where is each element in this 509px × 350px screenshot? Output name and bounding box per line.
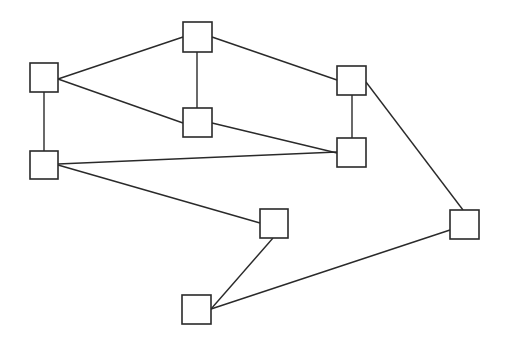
node-h	[450, 210, 479, 239]
node-c	[183, 108, 212, 137]
edge-c-f	[212, 123, 337, 153]
node-box	[450, 210, 479, 239]
edge-a-c	[58, 79, 183, 123]
node-d	[30, 151, 58, 179]
node-box	[30, 63, 58, 92]
edges-layer	[44, 37, 463, 309]
edge-h-i	[211, 230, 450, 309]
node-box	[337, 66, 366, 95]
node-box	[30, 151, 58, 179]
node-box	[260, 209, 288, 238]
edge-e-h	[366, 82, 463, 210]
node-box	[183, 108, 212, 137]
node-g	[260, 209, 288, 238]
node-a	[30, 63, 58, 92]
edge-d-g	[58, 165, 260, 223]
edge-a-b	[58, 37, 183, 79]
node-box	[337, 138, 366, 167]
graph-diagram	[0, 0, 509, 350]
nodes-layer	[30, 22, 479, 324]
edge-d-f	[58, 152, 337, 164]
node-box	[182, 295, 211, 324]
node-e	[337, 66, 366, 95]
node-b	[183, 22, 212, 52]
node-i	[182, 295, 211, 324]
node-box	[183, 22, 212, 52]
edge-b-e	[212, 37, 337, 80]
node-f	[337, 138, 366, 167]
